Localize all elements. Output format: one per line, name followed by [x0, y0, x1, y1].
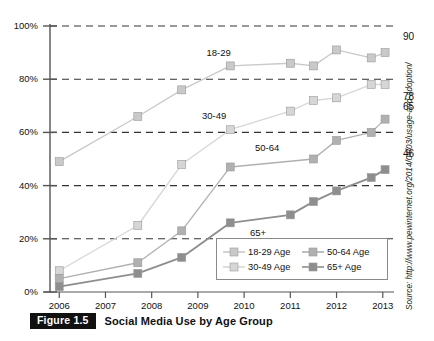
- series-end-label: 90: [390, 31, 414, 42]
- legend-item-label: 65+ Age: [327, 262, 361, 272]
- y-tick-label: 60%: [0, 126, 38, 137]
- x-tick-label: 2010: [224, 300, 264, 311]
- legend-item[interactable]: 30-49 Age: [223, 261, 302, 273]
- figure-title: Social Media Use by Age Group: [105, 315, 273, 327]
- source-text: Source: http://www.pewinternet.org/2014/…: [405, 62, 414, 310]
- series-annotation: 50-64: [247, 142, 287, 153]
- legend-item-label: 50-64 Age: [327, 247, 369, 257]
- y-tick-label: 0%: [0, 286, 38, 297]
- legend-item[interactable]: 65+ Age: [302, 261, 381, 273]
- x-tick-label: 2012: [317, 300, 357, 311]
- legend-item[interactable]: 50-64 Age: [302, 246, 381, 258]
- figure-caption: Figure 1.5 Social Media Use by Age Group: [30, 311, 273, 331]
- x-tick-label: 2011: [270, 300, 310, 311]
- legend-item[interactable]: 18-29 Age: [223, 246, 302, 258]
- y-tick-label: 40%: [0, 180, 38, 191]
- series-annotation: 18-29: [199, 47, 239, 58]
- y-tick-label: 100%: [0, 20, 38, 31]
- y-tick-label: 20%: [0, 233, 38, 244]
- source-note: Source: http://www.pewinternet.org/2014/…: [405, 60, 414, 310]
- x-tick-label: 2013: [363, 300, 403, 311]
- legend-swatch-icon: [223, 246, 245, 258]
- series-annotation: 65+: [238, 227, 278, 238]
- y-tick-label: 80%: [0, 73, 38, 84]
- legend-swatch-icon: [223, 261, 245, 273]
- legend-item-label: 18-29 Age: [248, 247, 290, 257]
- figure-number-badge: Figure 1.5: [30, 313, 96, 329]
- x-tick-label: 2009: [178, 300, 218, 311]
- legend-swatch-icon: [302, 261, 324, 273]
- x-tick-label: 2007: [85, 300, 125, 311]
- figure-container: 0%20%40%60%80%100% 200620072008200920102…: [0, 0, 434, 341]
- legend-swatch-icon: [302, 246, 324, 258]
- x-tick-label: 2008: [132, 300, 172, 311]
- chart-legend: 18-29 Age50-64 Age30-49 Age65+ Age: [216, 238, 388, 280]
- gridlines: [50, 26, 394, 239]
- legend-item-label: 30-49 Age: [248, 262, 290, 272]
- x-tick-label: 2006: [39, 300, 79, 311]
- series-annotation: 30-49: [194, 110, 234, 121]
